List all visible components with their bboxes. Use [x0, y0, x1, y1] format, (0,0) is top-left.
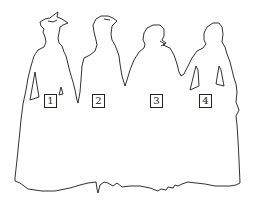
- arm-gap-4a: [190, 66, 199, 90]
- figure-label-1: 1: [44, 94, 57, 108]
- arm-gap-4b: [216, 66, 224, 86]
- figure-label-3: 3: [150, 94, 163, 108]
- figure-label-4: 4: [199, 94, 212, 108]
- hat-detail-1: [48, 20, 57, 22]
- figure-label-2: 2: [92, 94, 105, 108]
- arm-gap-1b: [59, 87, 63, 95]
- arm-gap-1a: [30, 72, 39, 100]
- silhouette-figure: [0, 0, 257, 215]
- bonnet-detail-2: [104, 19, 110, 20]
